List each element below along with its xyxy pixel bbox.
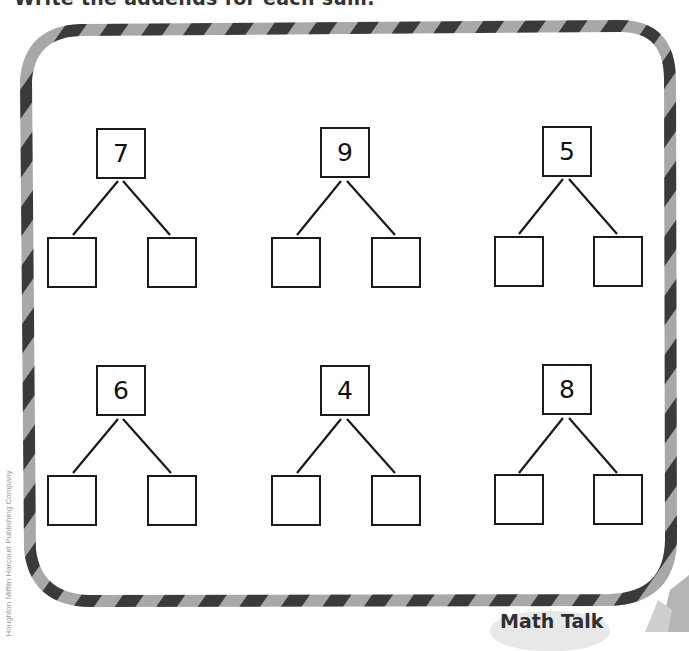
addend-box-left[interactable] (47, 237, 97, 288)
addend-box-right[interactable] (371, 237, 421, 288)
sum-box: 8 (542, 364, 592, 415)
addend-box-right[interactable] (593, 236, 643, 287)
sum-box: 6 (96, 365, 146, 416)
addend-box-left[interactable] (47, 475, 97, 526)
addend-box-right[interactable] (371, 475, 421, 526)
addend-box-right[interactable] (147, 475, 197, 526)
addend-box-right[interactable] (593, 474, 643, 525)
addend-box-left[interactable] (494, 236, 544, 287)
addend-box-left[interactable] (494, 474, 544, 525)
sum-box: 5 (542, 126, 592, 177)
addend-box-right[interactable] (147, 237, 197, 288)
sum-box: 7 (96, 128, 146, 179)
sum-box: 9 (320, 127, 370, 178)
math-talk-label: Math Talk (500, 610, 603, 632)
sum-box: 4 (320, 365, 370, 416)
addend-box-left[interactable] (271, 237, 321, 288)
bond-lines (73, 179, 617, 473)
copyright-text: Houghton Mifflin Harcourt Publishing Com… (4, 517, 13, 637)
addend-box-left[interactable] (271, 475, 321, 526)
